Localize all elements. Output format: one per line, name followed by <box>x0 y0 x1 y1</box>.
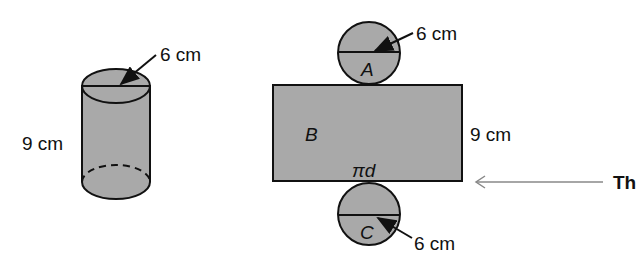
net <box>273 22 462 245</box>
callout-arrow-icon <box>476 176 603 188</box>
circle-c-diameter-label: 6 cm <box>414 233 455 254</box>
cylinder-net-diagram: 6 cm 9 cm 6 cm A B 9 cm πd C 6 cm Th <box>0 0 638 275</box>
circle-c-label: C <box>360 222 374 243</box>
cylinder-height-label: 9 cm <box>22 133 63 154</box>
circle-a-diameter-label: 6 cm <box>416 23 457 44</box>
callout-text: Th <box>613 172 636 193</box>
rectangle-b-label: B <box>305 124 318 145</box>
cylinder-diameter-label: 6 cm <box>160 44 201 65</box>
rectangle-height-label: 9 cm <box>470 124 511 145</box>
cylinder <box>82 55 156 199</box>
rectangle-width-label: πd <box>352 160 377 181</box>
circle-a-label: A <box>360 59 374 80</box>
